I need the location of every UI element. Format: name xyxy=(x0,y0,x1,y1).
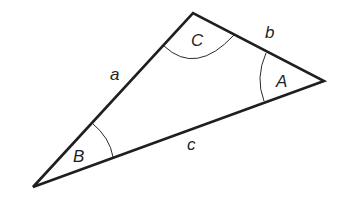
angle-label-c: C xyxy=(191,31,204,50)
side-label-a: a xyxy=(110,65,119,84)
triangle-diagram: C A B a b c xyxy=(0,0,351,201)
angle-arc-b xyxy=(92,123,113,157)
angle-label-a: A xyxy=(275,72,287,91)
angle-arc-a xyxy=(260,53,266,101)
angle-label-b: B xyxy=(73,147,84,166)
side-label-c: c xyxy=(187,135,196,154)
side-label-b: b xyxy=(265,23,274,42)
